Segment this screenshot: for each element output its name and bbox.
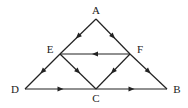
- node-label-f: F: [137, 43, 143, 55]
- node-label-e: E: [47, 43, 54, 55]
- edge-c-b: [96, 87, 167, 92]
- node-label-a: A: [92, 4, 100, 16]
- edge-e-c: [60, 54, 96, 89]
- triangle-graph-diagram: AEFDCB: [0, 0, 188, 108]
- edge-a-f: [96, 19, 130, 54]
- arrowhead-icon: [58, 87, 64, 92]
- edge-a-e: [60, 19, 96, 54]
- edge-f-e: [60, 52, 130, 57]
- arrowhead-icon: [92, 52, 98, 57]
- node-label-d: D: [11, 83, 19, 95]
- edge-f-c: [96, 54, 130, 89]
- edge-e-d: [25, 54, 60, 89]
- arrowhead-icon: [129, 87, 135, 92]
- edge-f-b: [130, 54, 167, 89]
- node-label-c: C: [92, 92, 99, 104]
- node-label-b: B: [173, 83, 180, 95]
- edge-d-c: [25, 87, 96, 92]
